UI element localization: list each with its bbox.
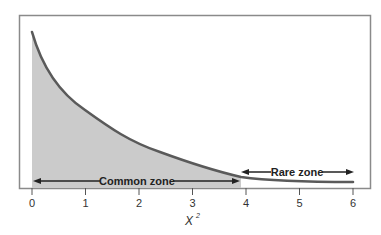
- tick-label-1: 1: [82, 197, 88, 209]
- x-axis-title-superscript: 2: [195, 212, 200, 219]
- common-zone-label: Common zone: [99, 175, 175, 187]
- chi-square-chart: Common zone Rare zone 0 1 2 3 4 5 6 X 2: [0, 0, 381, 235]
- tick-label-4: 4: [243, 197, 249, 209]
- x-axis-tick-labels: 0 1 2 3 4 5 6: [29, 197, 356, 209]
- tick-label-5: 5: [296, 197, 302, 209]
- x-axis-title: X 2: [184, 212, 200, 228]
- tick-label-3: 3: [189, 197, 195, 209]
- tick-label-2: 2: [136, 197, 142, 209]
- x-axis-title-base: X: [184, 214, 194, 228]
- tick-label-6: 6: [350, 197, 356, 209]
- tick-label-0: 0: [29, 197, 35, 209]
- rare-zone-label: Rare zone: [271, 166, 324, 178]
